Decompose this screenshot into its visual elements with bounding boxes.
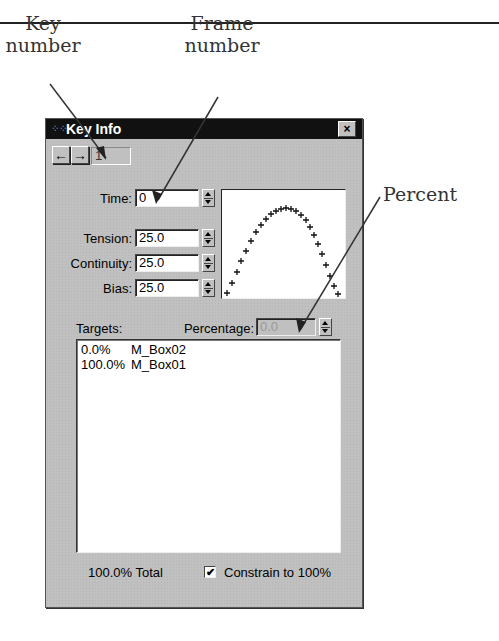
annotation-frame-number-line2: number [172, 34, 272, 56]
target-name: M_Box02 [131, 342, 186, 357]
time-spinner[interactable] [202, 189, 215, 207]
prev-key-button[interactable]: ← [52, 146, 70, 164]
close-icon: × [343, 122, 350, 136]
total-label: 100.0% Total [88, 565, 163, 580]
bias-label: Bias: [56, 281, 132, 296]
time-input[interactable]: 0 [135, 189, 199, 207]
tension-input[interactable]: 25.0 [135, 229, 199, 247]
targets-list[interactable]: 0.0%M_Box02 100.0%M_Box01 [76, 339, 341, 553]
annotation-key-number-line1: Key [0, 12, 86, 34]
bias-input[interactable]: 25.0 [135, 279, 199, 297]
target-percent: 0.0% [81, 342, 131, 357]
spin-up-icon [205, 257, 211, 261]
annotation-key-number-line2: number [0, 34, 86, 56]
annotation-percent: Percent [383, 183, 463, 205]
title-bar[interactable]: ⁘⁘ Key Info × [46, 119, 362, 139]
list-item[interactable]: 100.0%M_Box01 [81, 357, 186, 372]
spin-down-icon [205, 265, 211, 269]
spin-down-icon [322, 329, 328, 333]
curve-plot [222, 190, 345, 298]
spin-down-icon [205, 290, 211, 294]
percentage-label: Percentage: [166, 321, 254, 336]
time-label: Time: [56, 191, 132, 206]
constrain-label[interactable]: Constrain to 100% [224, 565, 331, 580]
arrow-right-icon: → [73, 147, 87, 163]
target-percent: 100.0% [81, 357, 131, 372]
dialog-title: Key Info [66, 121, 121, 137]
spin-up-icon [205, 232, 211, 236]
targets-label: Targets: [76, 321, 122, 336]
tension-spinner[interactable] [202, 229, 215, 247]
next-key-button[interactable]: → [71, 146, 89, 164]
percentage-input[interactable]: 0.0 [256, 318, 316, 336]
spin-down-icon [205, 240, 211, 244]
constrain-checkbox[interactable]: ✔ [204, 566, 216, 578]
annotation-frame-number-line1: Frame [172, 12, 272, 34]
bias-spinner[interactable] [202, 279, 215, 297]
spin-up-icon [322, 321, 328, 325]
key-info-dialog: ⁘⁘ Key Info × ← → 1 Time: 0 Tension: 25.… [45, 118, 363, 608]
percentage-spinner[interactable] [319, 318, 332, 336]
checkmark-icon: ✔ [206, 566, 215, 578]
arrow-left-icon: ← [54, 147, 68, 163]
spin-down-icon [205, 200, 211, 204]
spin-up-icon [205, 282, 211, 286]
list-item[interactable]: 0.0%M_Box02 [81, 342, 186, 357]
annotation-key-number: Key number [0, 12, 86, 56]
annotation-frame-number: Frame number [172, 12, 272, 56]
tension-label: Tension: [56, 231, 132, 246]
app-icon: ⁘⁘ [51, 123, 67, 134]
key-number-field: 1 [91, 147, 131, 165]
close-button[interactable]: × [338, 121, 356, 137]
target-name: M_Box01 [131, 357, 186, 372]
spin-up-icon [205, 192, 211, 196]
continuity-input[interactable]: 25.0 [135, 254, 199, 272]
continuity-spinner[interactable] [202, 254, 215, 272]
continuity-label: Continuity: [56, 256, 132, 271]
tcb-curve-graph [221, 189, 346, 299]
